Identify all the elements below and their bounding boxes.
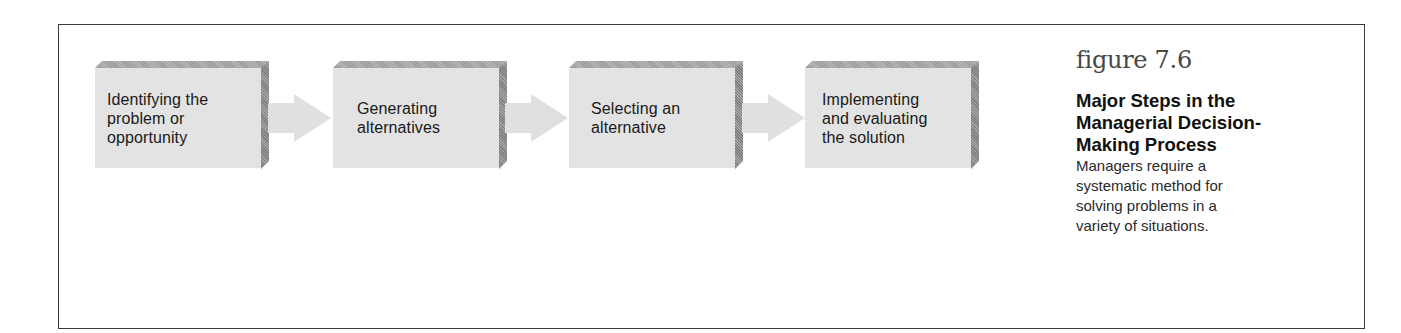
figure-description-line: variety of situations. xyxy=(1076,216,1356,236)
figure-number: figure 7.6 xyxy=(1076,44,1356,76)
step-label: Generating alternatives xyxy=(357,68,507,168)
step-label: Identifying the problem or opportunity xyxy=(107,68,257,168)
step-label-line: Selecting an xyxy=(591,99,741,118)
step-box-generating-alternatives: Generating alternatives xyxy=(333,61,507,169)
step-label-line: alternatives xyxy=(357,118,507,137)
step-label-line: Identifying the xyxy=(107,90,257,109)
box-top-bevel xyxy=(95,61,269,68)
step-label-line: Generating xyxy=(357,99,507,118)
step-label-line: opportunity xyxy=(107,128,257,147)
right-arrow-icon xyxy=(742,94,806,142)
box-top-bevel xyxy=(333,61,507,68)
figure-title: Major Steps in the Managerial Decision- … xyxy=(1076,90,1356,156)
box-top-bevel xyxy=(569,61,743,68)
step-box-selecting-alternative: Selecting an alternative xyxy=(569,61,743,169)
figure-title-line: Major Steps in the xyxy=(1076,90,1356,112)
figure-title-line: Making Process xyxy=(1076,134,1356,156)
figure-description-line: solving problems in a xyxy=(1076,196,1356,216)
step-label-line: alternative xyxy=(591,118,741,137)
figure-caption: figure 7.6 Major Steps in the Managerial… xyxy=(1076,44,1356,236)
step-label-line: and evaluating xyxy=(822,109,972,128)
step-label: Selecting an alternative xyxy=(591,68,741,168)
step-label-line: Implementing xyxy=(822,90,972,109)
step-box-implementing-evaluating: Implementing and evaluating the solution xyxy=(805,61,979,169)
right-arrow-icon xyxy=(268,94,332,142)
figure-title-line: Managerial Decision- xyxy=(1076,112,1356,134)
right-arrow-icon xyxy=(505,94,569,142)
figure-description: Managers require a systematic method for… xyxy=(1076,156,1356,236)
step-label-line: the solution xyxy=(822,128,972,147)
step-label-line: problem or xyxy=(107,109,257,128)
box-top-bevel xyxy=(805,61,979,68)
step-box-identifying-problem: Identifying the problem or opportunity xyxy=(95,61,269,169)
box-side-bevel xyxy=(971,61,979,169)
figure-description-line: Managers require a xyxy=(1076,156,1356,176)
figure-description-line: systematic method for xyxy=(1076,176,1356,196)
step-label: Implementing and evaluating the solution xyxy=(822,68,972,168)
